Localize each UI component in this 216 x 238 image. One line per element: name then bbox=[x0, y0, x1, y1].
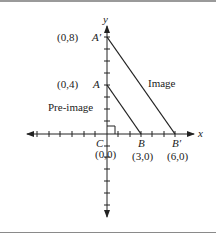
point-A-name: A bbox=[92, 78, 100, 90]
point-B-name: B bbox=[138, 137, 145, 149]
right-angle-marker bbox=[107, 126, 115, 134]
point-A-prime-name: A′ bbox=[91, 31, 102, 43]
y-axis bbox=[104, 26, 110, 217]
point-B-prime-coord: (6,0) bbox=[167, 150, 188, 163]
pre-image-label: Pre-image bbox=[48, 101, 93, 113]
point-B-coord: (3,0) bbox=[132, 150, 153, 163]
pre-image-segment-AB bbox=[107, 85, 141, 134]
point-B-prime-name: B′ bbox=[172, 137, 182, 149]
x-axis-label: x bbox=[197, 127, 203, 139]
image-label: Image bbox=[148, 77, 176, 89]
coordinate-plane-diagram: y x (0,8) A′ (0,4) A C (0,0) B (3,0) B′ … bbox=[0, 0, 216, 238]
point-A-prime-coord: (0,8) bbox=[57, 31, 78, 44]
y-axis-label: y bbox=[102, 13, 108, 25]
point-A-coord: (0,4) bbox=[57, 78, 78, 91]
point-C-coord: (0,0) bbox=[95, 148, 116, 161]
x-axis bbox=[27, 131, 194, 137]
